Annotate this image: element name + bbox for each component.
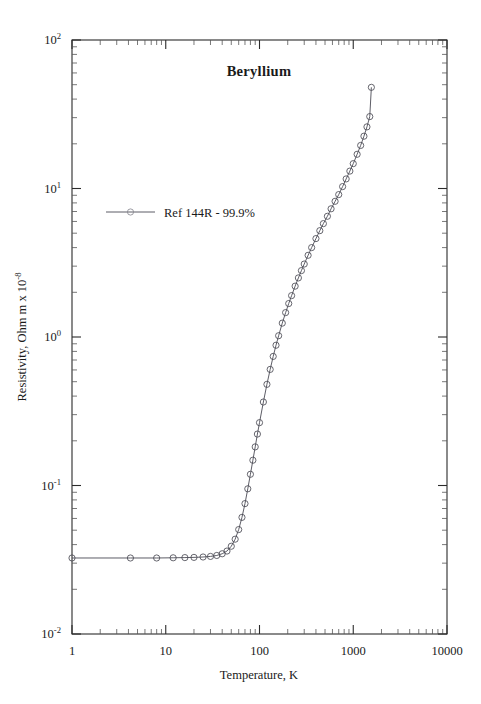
x-axis-title: Temperature, K: [220, 668, 298, 682]
data-series-group: [69, 84, 375, 561]
y-tick-label: 10-2: [41, 625, 61, 641]
x-axis-ticks: [72, 40, 447, 634]
y-tick-label: 102: [44, 31, 61, 47]
y-axis-ticks: [72, 40, 447, 634]
x-tick-label: 10000: [431, 644, 462, 658]
x-axis-tick-labels: 110100100010000: [69, 644, 463, 658]
chart-canvas: 110100100010000 10210110010-110-2 Beryll…: [0, 0, 481, 704]
resistivity-chart-figure: 110100100010000 10210110010-110-2 Beryll…: [0, 0, 481, 704]
chart-title: Beryllium: [227, 63, 292, 79]
x-tick-label: 100: [250, 644, 269, 658]
y-axis-title-group: Resistivity, Ohm m x 10-8: [13, 273, 29, 402]
y-axis-title: Resistivity, Ohm m x 10-8: [13, 273, 29, 402]
y-axis-title-text: Resistivity, Ohm m x 10: [15, 280, 29, 402]
plot-frame: [72, 40, 447, 634]
x-tick-label: 1: [69, 644, 75, 658]
data-line-series-0: [72, 87, 371, 558]
legend: Ref 144R - 99.9%: [106, 206, 255, 220]
y-tick-label: 101: [44, 180, 61, 196]
y-tick-label: 100: [44, 328, 61, 344]
y-tick-label: 10-1: [41, 477, 61, 493]
x-tick-label: 1000: [341, 644, 366, 658]
legend-entry-label: Ref 144R - 99.9%: [164, 206, 255, 220]
x-tick-label: 10: [160, 644, 173, 658]
y-axis-tick-labels: 10210110010-110-2: [41, 31, 61, 641]
y-axis-title-exponent: -8: [13, 273, 23, 280]
